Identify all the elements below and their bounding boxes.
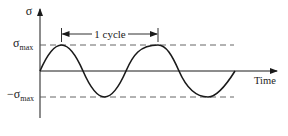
sigma-min-label: −σmax <box>7 87 34 103</box>
stress-cycle-diagram: 1 cycle σ σmax −σmax Time <box>0 0 288 136</box>
sigma-min-symbol: −σ <box>7 87 21 101</box>
cycle-label: 1 cycle <box>94 28 126 40</box>
time-axis-label: Time <box>254 75 276 86</box>
sigma-min-subscript: max <box>20 94 34 103</box>
sigma-max-subscript: max <box>19 43 33 52</box>
y-axis-label: σ <box>26 4 33 18</box>
sigma-max-label: σmax <box>13 36 33 52</box>
